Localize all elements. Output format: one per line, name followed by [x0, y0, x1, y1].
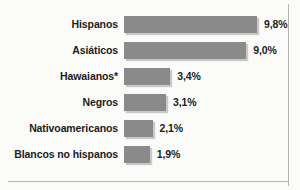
bar-row: Asiáticos 9,0%: [0, 37, 288, 63]
bar: [124, 16, 257, 33]
bar-row: Negros 3,1%: [0, 89, 288, 115]
bar: [124, 94, 166, 111]
category-label: Hawaianos*: [0, 70, 124, 82]
value-label: 2,1%: [160, 122, 184, 134]
bar-row: Blancos no hispanos 1,9%: [0, 141, 288, 167]
value-label: 9,8%: [264, 18, 288, 30]
plot-area: Hispanos 9,8% Asiáticos 9,0% Hawaianos* …: [0, 11, 288, 171]
frame-right-rule: [288, 4, 289, 186]
bar: [124, 68, 170, 85]
bar-group: 1,9%: [124, 146, 288, 163]
value-label: 3,1%: [173, 96, 197, 108]
bar-row: Hawaianos* 3,4%: [0, 63, 288, 89]
frame-bottom-rule: [8, 181, 289, 182]
bar-group: 9,0%: [124, 42, 288, 59]
value-label: 1,9%: [157, 148, 181, 160]
bar-row: Hispanos 9,8%: [0, 11, 288, 37]
category-label: Nativoamericanos: [0, 122, 124, 134]
value-label: 3,4%: [177, 70, 201, 82]
category-label: Blancos no hispanos: [0, 148, 124, 160]
bar-group: 3,4%: [124, 68, 288, 85]
category-label: Asiáticos: [0, 44, 124, 56]
bar: [124, 42, 246, 59]
bar-chart-figure: Hispanos 9,8% Asiáticos 9,0% Hawaianos* …: [0, 0, 300, 190]
bar-group: 2,1%: [124, 120, 288, 137]
bar-group: 3,1%: [124, 94, 288, 111]
bar-group: 9,8%: [124, 16, 288, 33]
bar-row: Nativoamericanos 2,1%: [0, 115, 288, 141]
bar: [124, 120, 153, 137]
category-label: Negros: [0, 96, 124, 108]
bar: [124, 146, 150, 163]
value-label: 9,0%: [253, 44, 277, 56]
category-label: Hispanos: [0, 18, 124, 30]
